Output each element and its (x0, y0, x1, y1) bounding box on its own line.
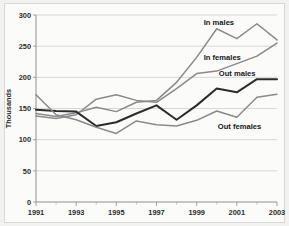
y-tick-label: 0 (27, 198, 31, 207)
chart-screenshot: 0501001502002503001991199319951997199920… (0, 0, 289, 226)
x-tick-label: 2003 (269, 208, 285, 217)
y-axis-title: Thousands (4, 89, 13, 128)
line-chart: 0501001502002503001991199319951997199920… (0, 0, 289, 226)
x-tick-label: 1993 (68, 208, 84, 217)
series-label-in-males: In males (204, 18, 234, 27)
x-tick-label: 1995 (108, 208, 124, 217)
y-tick-label: 100 (19, 135, 31, 144)
series-label-out-females: Out females (218, 122, 261, 131)
x-tick-label: 1999 (188, 208, 204, 217)
y-tick-label: 300 (19, 11, 31, 20)
y-tick-label: 200 (19, 73, 31, 82)
y-tick-label: 150 (19, 104, 31, 113)
series-label-out-males: Out males (219, 69, 256, 78)
x-tick-label: 1997 (148, 208, 164, 217)
x-tick-label: 2001 (229, 208, 245, 217)
y-tick-label: 50 (23, 167, 31, 176)
y-tick-label: 250 (19, 42, 31, 51)
series-label-in-females: In females (204, 53, 241, 62)
x-tick-label: 1991 (28, 208, 44, 217)
